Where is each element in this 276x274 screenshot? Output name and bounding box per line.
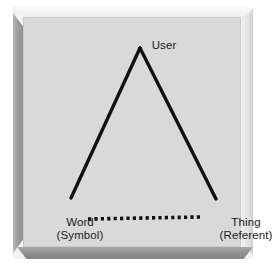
edge-user-word: [71, 48, 140, 198]
node-thing-primary: Thing: [204, 216, 276, 229]
node-label-word: Word (Symbol): [44, 216, 116, 242]
diagram-panel: User Word (Symbol) Thing (Referent): [24, 18, 252, 248]
node-word-secondary: (Symbol): [44, 229, 116, 242]
node-label-user: User: [126, 39, 202, 52]
triangle-graphic: [24, 18, 252, 248]
node-thing-secondary: (Referent): [204, 229, 276, 242]
figure-canvas: User Word (Symbol) Thing (Referent): [0, 0, 276, 274]
node-label-thing: Thing (Referent): [204, 216, 276, 242]
frame-bevel-bottom: [17, 247, 253, 259]
node-word-primary: Word: [44, 216, 116, 229]
edge-user-thing: [140, 48, 216, 199]
node-user-primary: User: [126, 39, 202, 52]
